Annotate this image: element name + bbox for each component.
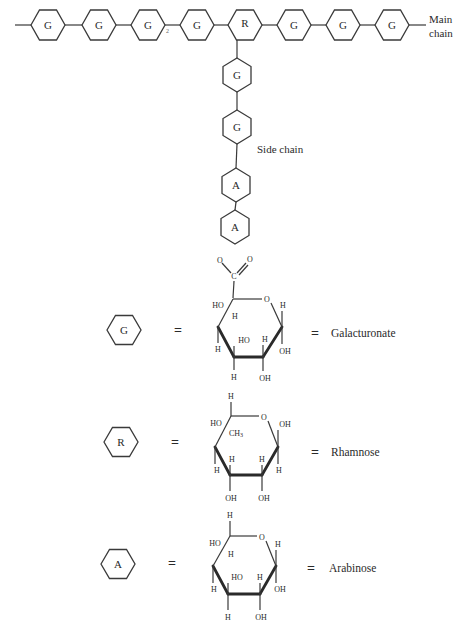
substituent: OH bbox=[255, 613, 267, 622]
substituent: HO bbox=[231, 573, 243, 582]
side-chain-unit: G bbox=[223, 58, 251, 92]
unit-label: G bbox=[388, 19, 396, 31]
substituent: HO bbox=[209, 539, 221, 548]
substituent: H bbox=[211, 585, 217, 594]
substituent: HO bbox=[212, 301, 224, 310]
carboxyl-oxygen: O bbox=[217, 256, 223, 265]
substituent: OH bbox=[259, 374, 271, 383]
main-chain-unit: G bbox=[375, 10, 409, 40]
main-chain-unit: G bbox=[82, 10, 116, 40]
main-chain-unit: G bbox=[277, 10, 311, 40]
unit-label: G bbox=[193, 19, 201, 31]
legend-symbol: R bbox=[104, 428, 138, 457]
substituent: H bbox=[228, 550, 234, 559]
legend-symbol: G bbox=[107, 316, 141, 345]
unit-label: G bbox=[233, 121, 241, 133]
substituent: HO bbox=[238, 336, 250, 345]
main-chain: G G G 2 G R G G G Main bbox=[15, 10, 453, 40]
substituent: OH bbox=[279, 347, 291, 356]
substituent: H bbox=[231, 373, 237, 382]
main-chain-label-line2: chain bbox=[429, 27, 453, 39]
sugar-name: Arabinose bbox=[329, 562, 376, 574]
symbol-label: G bbox=[120, 324, 128, 336]
chain-bond bbox=[236, 144, 237, 168]
unit-label: A bbox=[231, 221, 239, 233]
side-chain-unit: A bbox=[222, 168, 250, 202]
substituent: H bbox=[232, 312, 238, 321]
main-chain-label: Main bbox=[429, 13, 453, 25]
symbol-label: A bbox=[114, 558, 122, 570]
substituent: H bbox=[227, 511, 233, 520]
equals-sign: = bbox=[168, 556, 176, 571]
main-chain-unit: G bbox=[180, 10, 214, 40]
ring-oxygen: O bbox=[261, 413, 267, 422]
substituent: H bbox=[262, 335, 268, 344]
unit-label: A bbox=[232, 179, 240, 191]
substituent: H bbox=[229, 455, 235, 464]
equals-sign: = bbox=[171, 435, 179, 450]
methyl-group: CH3 bbox=[229, 429, 243, 439]
ring-oxygen: O bbox=[264, 295, 270, 304]
substituent: H bbox=[225, 613, 231, 622]
side-chain-unit: A bbox=[221, 210, 249, 244]
substituent: H bbox=[276, 466, 282, 475]
substituent: OH bbox=[258, 494, 270, 503]
unit-label: R bbox=[241, 17, 249, 29]
equals-sign: = bbox=[311, 445, 319, 460]
unit-label: G bbox=[290, 19, 298, 31]
unit-label: G bbox=[44, 19, 52, 31]
substituent: H bbox=[280, 301, 286, 310]
unit-label: G bbox=[233, 69, 241, 81]
unit-label: G bbox=[339, 19, 347, 31]
ring-oxygen: O bbox=[259, 533, 265, 542]
main-chain-unit-branch-point: R bbox=[228, 10, 262, 40]
main-chain-unit: G bbox=[131, 10, 165, 40]
substituent: H bbox=[214, 466, 220, 475]
unit-label: G bbox=[95, 19, 103, 31]
galacturonate-structure: C O O O HO H H OH H HO H H bbox=[212, 255, 291, 383]
main-chain-unit: G bbox=[31, 10, 65, 40]
substituent: H bbox=[257, 573, 263, 582]
substituent: H bbox=[275, 540, 281, 549]
legend-row-rhamnose: R = O H HO CH3 OH H H H OH H bbox=[104, 392, 380, 503]
arabinose-structure: O H HO H H OH H HO H H OH bbox=[209, 511, 286, 622]
carboxyl-carbon: C bbox=[231, 272, 236, 281]
rhamnose-structure: O H HO CH3 OH H H H OH H OH bbox=[210, 392, 291, 503]
substituent: H bbox=[215, 345, 221, 354]
legend-row-arabinose: A = O H HO H H OH H HO H H bbox=[101, 511, 376, 622]
side-chain-unit: G bbox=[223, 110, 251, 144]
substituent: OH bbox=[279, 420, 291, 429]
substituent: OH bbox=[274, 585, 286, 594]
legend-symbol: A bbox=[101, 550, 135, 579]
equals-sign: = bbox=[307, 561, 315, 576]
sugar-name: Rhamnose bbox=[331, 446, 380, 458]
side-chain: G G A A Side chain bbox=[221, 40, 304, 244]
main-chain-unit: G bbox=[326, 10, 360, 40]
carboxyl-oxygen: O bbox=[247, 255, 253, 264]
symbol-label: R bbox=[117, 436, 125, 448]
substituent: H bbox=[259, 455, 265, 464]
equals-sign: = bbox=[311, 326, 319, 341]
side-chain-label: Side chain bbox=[257, 143, 304, 155]
equals-sign: = bbox=[174, 323, 182, 338]
sugar-name: Galacturonate bbox=[331, 327, 396, 339]
substituent: HO bbox=[210, 419, 222, 428]
substituent: H bbox=[228, 392, 234, 401]
legend-row-galacturonate: G = C O O O HO H H OH bbox=[107, 255, 396, 383]
linkage-mark: 2 bbox=[166, 28, 169, 34]
unit-label: G bbox=[144, 19, 152, 31]
chain-bond bbox=[235, 202, 236, 210]
pectin-structure-diagram: G G G 2 G R G G G Main bbox=[0, 0, 467, 635]
substituent: OH bbox=[225, 494, 237, 503]
